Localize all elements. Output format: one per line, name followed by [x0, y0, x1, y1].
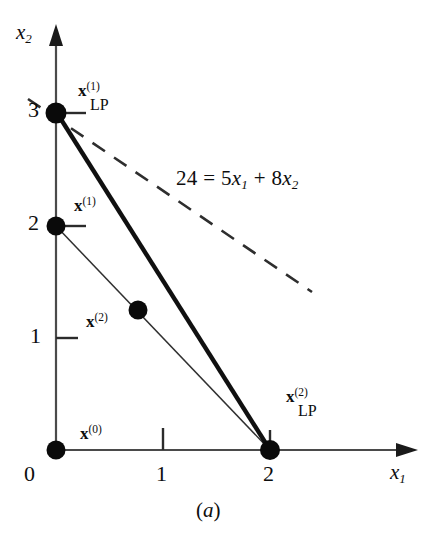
equation-plus: + [254, 166, 266, 190]
lp-boundary-thick-line [57, 113, 270, 450]
point-label-x1-var: x [74, 196, 83, 215]
caption-open-paren: ( [196, 498, 203, 522]
equation-var1: x [232, 166, 242, 190]
data-point-x2[interactable] [129, 301, 148, 320]
y-tick-label-3: 3 [28, 99, 39, 121]
y-axis-arrowhead [49, 24, 63, 46]
figure-caption: (a) [196, 500, 221, 521]
equation-lhs: 24 [176, 166, 198, 190]
point-label-x2-sup: (2) [95, 311, 108, 323]
plot-canvas [0, 0, 433, 547]
data-point-x1-lp[interactable] [46, 103, 67, 124]
point-label-x1-sup: (1) [83, 195, 96, 207]
point-label-x2-lp: x(2) LP [286, 387, 317, 419]
point-label-x1-lp-sub: LP [90, 97, 109, 113]
y-axis-label-var: x [16, 20, 25, 44]
equation-coef2: 8 [271, 166, 282, 190]
point-label-x1-lp: x(1) LP [78, 81, 109, 113]
point-label-x0: x(0) [80, 424, 102, 442]
x-axis-arrowhead [396, 443, 418, 457]
x-tick-label-2: 2 [263, 463, 274, 485]
caption-close-paren: ) [214, 498, 221, 522]
data-point-x1[interactable] [47, 217, 66, 236]
y-tick-label-1: 1 [30, 325, 41, 347]
x-axis-label-var: x [390, 460, 399, 484]
x-axis-label: x1 [390, 462, 406, 485]
integer-hull-thin-line [56, 226, 270, 450]
equation-var2-sub: 2 [292, 177, 299, 192]
y-tick-label-2: 2 [28, 212, 39, 234]
point-label-x1-lp-var: x [78, 81, 87, 100]
point-label-x2-lp-var: x [286, 387, 295, 406]
point-label-x1-lp-sup: (1) [87, 80, 100, 92]
y-axis-label-sub: 2 [25, 31, 32, 46]
equation-equals: = [203, 166, 215, 190]
x-tick-label-1: 1 [156, 463, 167, 485]
point-label-x2-var: x [86, 312, 95, 331]
figure-container: x2 x1 1 2 3 0 1 2 x(0) x(1) x(2) x(1) LP… [0, 0, 433, 547]
point-label-x2: x(2) [86, 312, 108, 330]
data-point-x2-lp[interactable] [260, 440, 280, 460]
point-label-x2-lp-sub: LP [298, 403, 317, 419]
point-label-x0-var: x [80, 424, 89, 443]
x-axis-label-sub: 1 [399, 471, 406, 486]
point-label-x0-sup: (0) [89, 423, 102, 435]
objective-contour-dashed-line [28, 99, 312, 292]
y-axis-label: x2 [16, 22, 32, 45]
objective-equation-label: 24 = 5x1 + 8x2 [176, 168, 299, 191]
data-point-x0[interactable] [47, 441, 66, 460]
equation-coef1: 5 [221, 166, 232, 190]
point-label-x1: x(1) [74, 196, 96, 214]
origin-label: 0 [24, 463, 35, 485]
point-label-x2-lp-sup: (2) [295, 386, 308, 398]
caption-letter: a [203, 498, 214, 522]
equation-var2: x [282, 166, 292, 190]
equation-var1-sub: 1 [241, 177, 248, 192]
